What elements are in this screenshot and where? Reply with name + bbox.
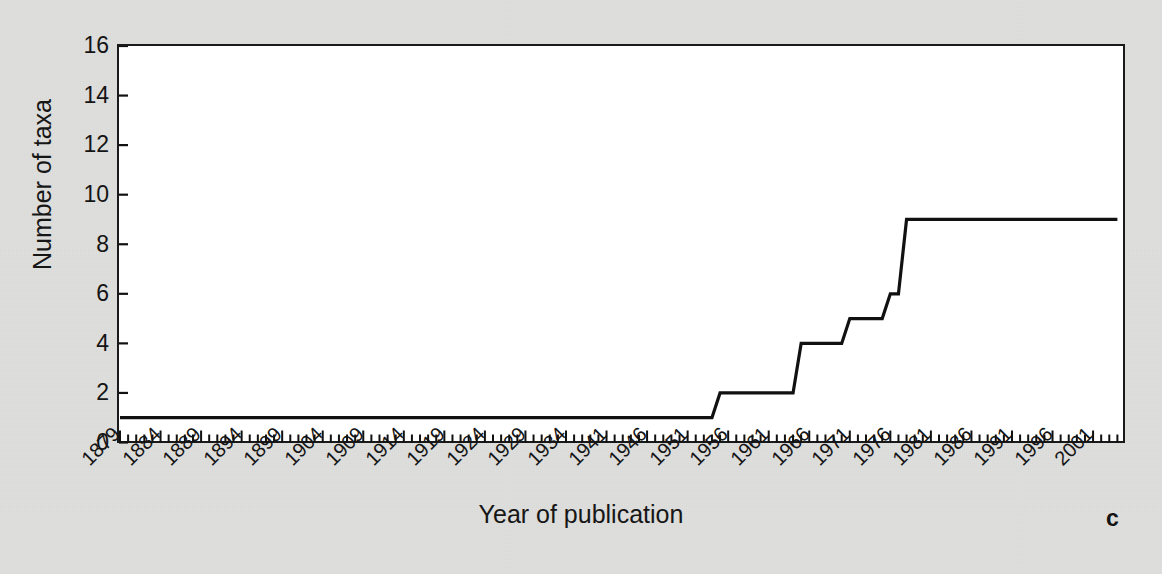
figure-panel: 0246810121416 Number of taxa 18791884188… [0, 0, 1162, 574]
x-axis-tick-1941: 1941 [564, 423, 612, 471]
x-axis-tick-1934: 1934 [523, 423, 571, 471]
x-axis-tick-1919: 1919 [402, 423, 450, 471]
x-axis-tick-1884: 1884 [118, 423, 166, 471]
x-axis-tick-1986: 1986 [929, 423, 977, 471]
x-axis-title: Year of publication [0, 500, 1162, 529]
x-axis-tick-1914: 1914 [361, 423, 409, 471]
x-axis-tick-1924: 1924 [442, 423, 490, 471]
x-axis-tick-1956: 1956 [685, 423, 733, 471]
x-axis-tick-1929: 1929 [483, 423, 531, 471]
x-axis-tick-1996: 1996 [1010, 423, 1058, 471]
x-axis-tick-1971: 1971 [807, 423, 855, 471]
x-axis-tick-1951: 1951 [645, 423, 693, 471]
x-axis-tick-1991: 1991 [969, 423, 1017, 471]
panel-letter-label: c [1106, 505, 1119, 532]
x-axis-tick-1976: 1976 [848, 423, 896, 471]
x-axis-tick-2001: 2001 [1050, 423, 1098, 471]
x-axis-tick-1961: 1961 [726, 423, 774, 471]
x-axis-tick-1894: 1894 [199, 423, 247, 471]
x-axis-tick-1889: 1889 [158, 423, 206, 471]
x-axis-tick-labels: 1879188418891894189919041909191419191924… [0, 0, 1162, 574]
x-axis-tick-1879: 1879 [77, 423, 125, 471]
x-axis-tick-1981: 1981 [888, 423, 936, 471]
x-axis-tick-1966: 1966 [767, 423, 815, 471]
x-axis-tick-1946: 1946 [604, 423, 652, 471]
x-axis-tick-1904: 1904 [280, 423, 328, 471]
x-axis-tick-1899: 1899 [239, 423, 287, 471]
x-axis-tick-1909: 1909 [321, 423, 369, 471]
